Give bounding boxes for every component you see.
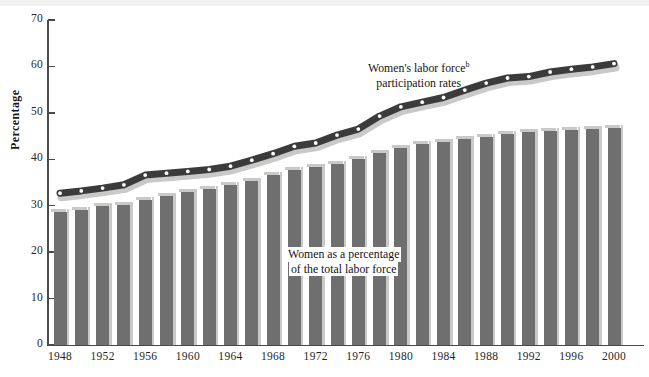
line-marker [506, 76, 510, 80]
plot-area: 010203040506070 194819521956196019641968… [47, 20, 644, 345]
line-marker [58, 191, 62, 195]
line-marker [79, 189, 83, 193]
x-tick-label: 1972 [304, 350, 328, 362]
line-marker [271, 152, 275, 156]
line-marker [399, 105, 403, 109]
line-marker [165, 171, 169, 175]
line-marker [229, 164, 233, 168]
y-tick-label: 30 [23, 198, 43, 210]
line-marker [293, 144, 297, 148]
line-marker [314, 141, 318, 145]
line-marker [548, 70, 552, 74]
line-marker [356, 127, 360, 131]
line-marker [122, 183, 126, 187]
line-marker [143, 173, 147, 177]
line-marker [484, 81, 488, 85]
line-marker [101, 186, 105, 190]
x-tick-label: 1948 [48, 350, 72, 362]
annotation-bar-text-2: of the total labor force [289, 262, 398, 277]
annotation-footnote-marker: b [465, 60, 469, 69]
line-marker [527, 75, 531, 79]
y-tick-label: 10 [23, 291, 43, 303]
line-marker [250, 158, 254, 162]
y-tick-label: 70 [23, 12, 43, 24]
line-marker [335, 133, 339, 137]
chart-figure: Percentage 010203040506070 1948195219561… [0, 0, 649, 377]
line-marker [612, 62, 616, 66]
x-tick-label: 1976 [346, 350, 370, 362]
x-tick-label: 1968 [261, 350, 285, 362]
x-tick-label: 1992 [517, 350, 541, 362]
line-marker [207, 168, 211, 172]
y-tick-label: 60 [23, 58, 43, 70]
x-tick-label: 1964 [218, 350, 242, 362]
y-tick-label: 20 [23, 244, 43, 256]
annotation-line-text-1: Women's labor force [368, 61, 465, 75]
x-tick-label: 1988 [474, 350, 498, 362]
line-marker [420, 100, 424, 104]
line-marker [570, 67, 574, 71]
y-tick-label: 40 [23, 151, 43, 163]
top-band [0, 0, 649, 6]
x-tick-label: 1984 [431, 350, 455, 362]
x-tick-label: 2000 [602, 350, 626, 362]
annotation-line-series: Women's labor forceb participation rates [368, 60, 469, 90]
x-tick-label: 1960 [176, 350, 200, 362]
line-series [47, 20, 644, 345]
y-tick-label: 0 [23, 337, 43, 349]
x-tick-label: 1956 [133, 350, 157, 362]
y-tick-label: 50 [23, 105, 43, 117]
line-marker [591, 65, 595, 69]
x-tick-label: 1996 [559, 350, 583, 362]
annotation-line-text-2: participation rates [376, 76, 461, 91]
annotation-bar-series: Women as a percentage of the total labor… [286, 247, 401, 276]
annotation-bar-text-1: Women as a percentage [286, 247, 401, 262]
line-marker [442, 96, 446, 100]
line-marker [378, 114, 382, 118]
x-tick-label: 1980 [389, 350, 413, 362]
y-axis-title: Percentage [8, 90, 23, 150]
line-marker [186, 170, 190, 174]
x-tick-label: 1952 [91, 350, 115, 362]
x-axis-line [47, 345, 644, 346]
